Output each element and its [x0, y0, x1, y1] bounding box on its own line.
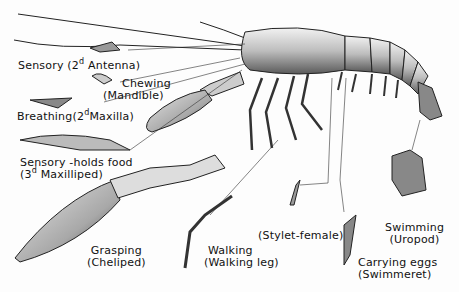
label-stylet: (Stylet-female) [258, 230, 343, 242]
label-swimmeret: Carrying eggs(Swimmeret) [358, 257, 437, 281]
label-maxilliped: Sensory -holds food(3d Maxilliped) [20, 157, 133, 181]
walking-legs [250, 74, 322, 150]
crayfish-diagram: Sensory (2d Antenna) Chewing(Mandible) B… [0, 0, 459, 292]
antennae [14, 14, 245, 50]
detached-appendages [15, 42, 426, 268]
label-walking-leg: Walking(Walking leg) [204, 245, 279, 269]
label-uropod: Swimming(Uropod) [385, 222, 444, 246]
label-maxilla: Breathing(2dMaxilla) [17, 111, 134, 123]
swimmerets [338, 72, 398, 98]
label-mandible: Chewing(Mandible) [96, 78, 171, 102]
label-cheliped: Grasping(Cheliped) [87, 245, 146, 269]
label-antenna: Sensory (2d Antenna) [18, 60, 140, 72]
